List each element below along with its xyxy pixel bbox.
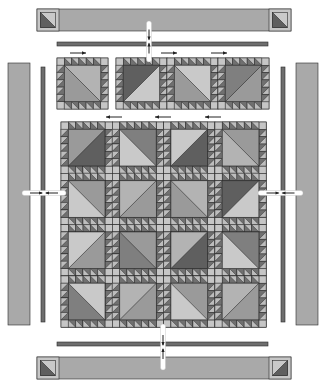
corner-square [208,173,215,180]
corner-square [164,166,171,173]
grid-block-r3-c3 [164,225,215,276]
corner-square [167,102,174,109]
join-seam [22,191,66,196]
corner-square [208,122,215,129]
corner-square [164,122,171,129]
join-seam [147,21,152,62]
corner-square [262,58,269,65]
corner-square [211,58,218,65]
corner-square [61,122,68,129]
grid-arrow-2 [155,115,171,119]
corner-square [164,173,171,180]
corner-square [105,217,112,224]
grid-block-r3-c2 [112,225,163,276]
corner-square [156,217,163,224]
corner-square [156,276,163,283]
corner-square [208,225,215,232]
corner-square [167,58,174,65]
corner-square [112,269,119,276]
corner-square [156,122,163,129]
corner-square [215,166,222,173]
corner-square [215,173,222,180]
corner-square [105,122,112,129]
arrow-head [155,115,159,119]
corner-square [61,217,68,224]
corner-square [61,276,68,283]
corner-square [57,102,64,109]
corner-square [208,320,215,327]
corner-square [101,58,108,65]
arrow-head [106,115,110,119]
top-row-strip-block-1 [116,58,167,109]
corner-square [101,102,108,109]
corner-square [156,166,163,173]
grid-block-r4-c3 [164,276,215,327]
arrow-head [173,51,177,55]
corner-square [61,166,68,173]
corner-square [112,217,119,224]
corner-square [61,225,68,232]
corner-square [156,173,163,180]
corner-square [57,58,64,65]
corner-square [208,217,215,224]
top-row-strip-block-2 [167,58,218,109]
grid-arrow-1 [106,115,122,119]
corner-square [259,225,266,232]
grid-block-r2-c1 [61,173,112,224]
corner-square [262,102,269,109]
corner-square [105,269,112,276]
corner-square [215,276,222,283]
center-block-grid [61,122,266,327]
corner-square [259,122,266,129]
corner-square [105,166,112,173]
corner-square [259,320,266,327]
corner-square [105,320,112,327]
corner-square [218,102,225,109]
grid-block-r1-c3 [164,122,215,173]
top-row-single-block [57,58,108,109]
vertical-join-2 [161,324,166,370]
corner-square [218,58,225,65]
grid-block-r2-c2 [112,173,163,224]
corner-square [208,276,215,283]
grid-block-r1-c4 [215,122,266,173]
corner-square [112,276,119,283]
corner-square [211,102,218,109]
corner-square [105,225,112,232]
arrow-head [205,115,209,119]
corner-square [116,102,123,109]
top-row-arrow-1 [70,51,86,55]
top-row-arrow-2 [161,51,177,55]
corner-square [259,166,266,173]
corner-square [215,225,222,232]
corner-square [164,225,171,232]
corner-square [61,269,68,276]
grid-block-r4-c2 [112,276,163,327]
top-border-fill [37,9,291,31]
corner-square [164,276,171,283]
horizontal-join-2 [258,191,303,196]
grid-block-r2-c3 [164,173,215,224]
corner-square [112,320,119,327]
corner-square [259,217,266,224]
grid-block-r3-c4 [215,225,266,276]
grid-block-r4-c1 [61,276,112,327]
top-row-strip-block-3 [218,58,269,109]
arrow-head [82,51,86,55]
top-border [37,9,291,31]
corner-square [156,225,163,232]
corner-square [112,166,119,173]
join-seam [161,324,166,370]
grid-block-r3-c1 [61,225,112,276]
corner-square [164,269,171,276]
corner-square [215,122,222,129]
corner-square [259,269,266,276]
arrow-head [223,51,227,55]
quilt-assembly-diagram [0,0,325,390]
corner-square [105,276,112,283]
corner-square [112,225,119,232]
corner-square [61,320,68,327]
grid-block-r1-c1 [61,122,112,173]
corner-square [215,217,222,224]
top-inner-strip [57,42,268,46]
